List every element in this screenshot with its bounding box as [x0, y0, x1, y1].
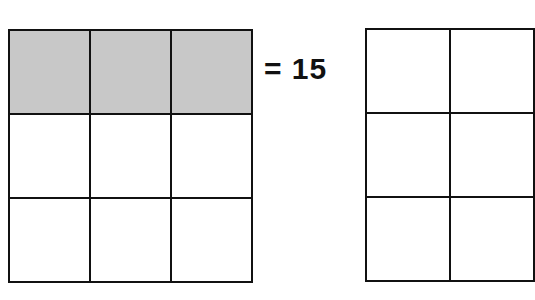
right-grid-3x2 — [365, 28, 535, 282]
grid-cell — [10, 199, 89, 281]
grid-cell-shaded — [10, 31, 89, 113]
grid-cell — [451, 30, 533, 112]
grid-cell — [367, 114, 449, 196]
grid-cell — [10, 115, 89, 197]
equation-label: = 15 — [264, 52, 327, 86]
grid-cell — [91, 199, 170, 281]
grid-cell — [91, 115, 170, 197]
grid-cell — [367, 198, 449, 280]
grid-cell — [367, 30, 449, 112]
grid-cell — [172, 115, 251, 197]
grid-cell-shaded — [172, 31, 251, 113]
grid-cell — [451, 114, 533, 196]
left-grid-3x3 — [8, 29, 253, 283]
grid-cell — [451, 198, 533, 280]
grid-cell — [172, 199, 251, 281]
grid-cell-shaded — [91, 31, 170, 113]
